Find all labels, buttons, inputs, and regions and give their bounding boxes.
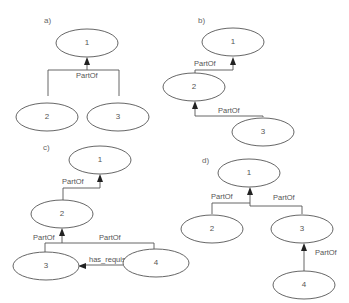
node-label: 1 [231, 37, 236, 46]
arrow-head-icon [301, 243, 307, 251]
edge-label-d-3: PartOf [315, 248, 338, 257]
node-label: 2 [60, 209, 65, 218]
panel-label-d: d) [202, 156, 209, 165]
panel-label-a: a) [44, 16, 51, 25]
edge-label-c-3: PartOf [99, 233, 122, 242]
edge-label-a-partof: PartOf [76, 71, 99, 80]
node-a-2: 2 [16, 103, 78, 131]
node-b-1: 1 [202, 28, 264, 56]
node-c-1: 1 [69, 146, 131, 174]
partof-edge-d-2-to-1 [212, 203, 250, 214]
panel-label-c: c) [43, 143, 50, 152]
node-d-2: 2 [181, 215, 243, 243]
edge-label-b-2: PartOf [218, 106, 241, 115]
node-d-1: 1 [218, 159, 280, 187]
node-label: 1 [247, 168, 252, 177]
panel-c: c) PartOf PartOf PartOf has_requisite 1 … [13, 143, 189, 280]
node-label: 4 [302, 280, 307, 289]
node-label: 2 [45, 112, 50, 121]
panel-d: d) PartOf PartOf PartOf 1 2 3 4 [181, 156, 338, 299]
node-label: 2 [192, 82, 197, 91]
node-a-1: 1 [56, 29, 118, 57]
diagram-canvas: a) PartOf 1 2 3 b) PartOf PartOf [0, 0, 349, 303]
node-label: 1 [85, 38, 90, 47]
panel-b: b) PartOf PartOf 1 2 3 [163, 16, 294, 146]
node-c-4: 4 [123, 249, 189, 277]
node-c-2: 2 [31, 200, 93, 228]
node-b-2: 2 [163, 73, 225, 101]
node-label: 3 [300, 224, 305, 233]
edge-label-b-1: PartOf [194, 59, 217, 68]
node-label: 4 [154, 258, 159, 267]
node-label: 2 [210, 224, 215, 233]
arrow-head-icon [247, 187, 253, 195]
arrow-head-icon [230, 57, 236, 65]
arrow-head-icon [59, 228, 65, 236]
node-label: 3 [116, 112, 121, 121]
node-label: 3 [261, 127, 266, 136]
node-d-4: 4 [273, 271, 335, 299]
edge-label-d-2: PartOf [273, 193, 296, 202]
arrow-head-icon [192, 101, 198, 109]
arrow-head-icon [84, 57, 90, 65]
partof-edge-c-3-4-to-2 [45, 243, 154, 252]
panel-a: a) PartOf 1 2 3 [16, 16, 149, 131]
edge-label-d-1: PartOf [211, 192, 234, 201]
node-d-3: 3 [271, 215, 333, 243]
node-a-3: 3 [87, 103, 149, 131]
arrow-head-icon [97, 174, 103, 182]
panel-label-b: b) [198, 16, 205, 25]
node-label: 1 [98, 155, 103, 164]
edge-label-c-1: PartOf [62, 177, 85, 186]
edge-label-c-2: PartOf [33, 233, 56, 242]
node-label: 3 [44, 261, 49, 270]
node-b-3: 3 [232, 118, 294, 146]
node-c-3: 3 [13, 252, 79, 280]
